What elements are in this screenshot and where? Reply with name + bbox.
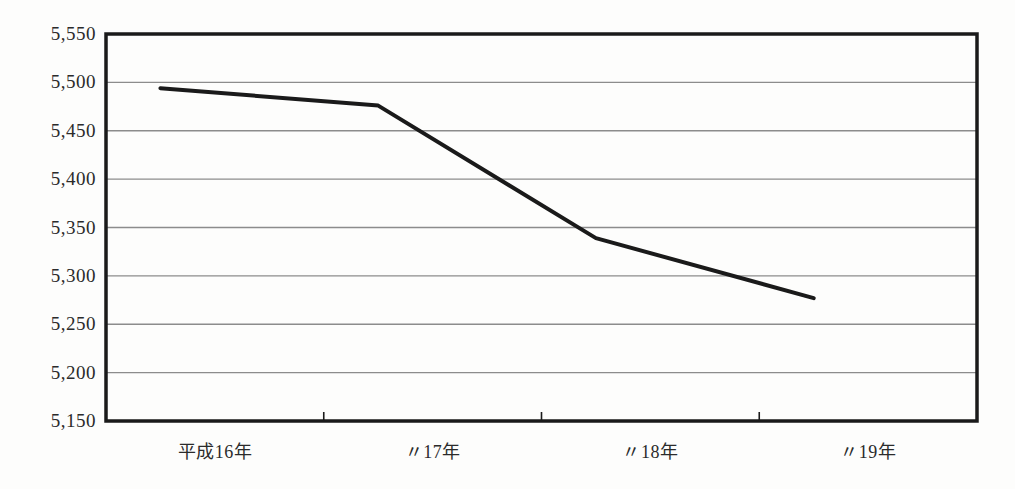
x-axis-tick-label: 平成16年 bbox=[135, 437, 295, 463]
line-chart-figure: 5,5505,5005,4505,4005,3505,3005,2505,200… bbox=[0, 0, 1015, 489]
x-axis-tick-label: 〃18年 bbox=[570, 437, 730, 463]
x-axis-tick-label: 〃19年 bbox=[788, 437, 948, 463]
x-axis-labels: 平成16年〃17年〃18年〃19年 bbox=[0, 0, 1015, 489]
x-axis-tick-label: 〃17年 bbox=[353, 437, 513, 463]
